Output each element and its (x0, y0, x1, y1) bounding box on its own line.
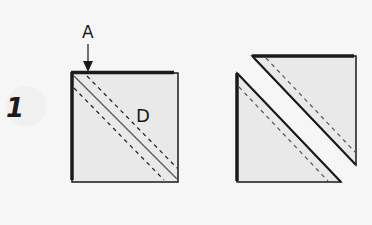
diagram-canvas: 1 A D (0, 0, 372, 225)
left-square (71, 72, 178, 182)
arrow-a-icon (83, 44, 93, 72)
diagram-graphic (0, 0, 372, 225)
label-a: A (82, 22, 94, 42)
step-number: 1 (6, 93, 24, 123)
label-d: D (136, 105, 150, 126)
